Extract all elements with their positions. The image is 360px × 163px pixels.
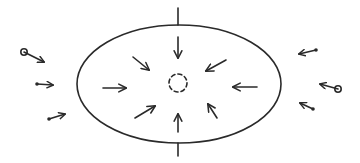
particle-right-6 <box>300 103 315 111</box>
diagram-canvas: Hand-drawn sketch of an elliptical regio… <box>0 0 360 163</box>
particle-motion-arrow-icon <box>299 50 316 54</box>
dashed-center-circle <box>169 74 187 92</box>
particle-motion-arrow-icon <box>300 103 313 109</box>
particle-right-5 <box>320 84 341 92</box>
inward-arrow-lower-left-icon <box>135 106 155 118</box>
particle-left-2 <box>35 82 53 86</box>
outer-particles <box>21 48 341 121</box>
elliptical-region <box>77 25 281 143</box>
inward-arrow-upper-right-icon <box>206 60 226 71</box>
diagram-svg <box>0 0 360 163</box>
particle-right-4 <box>299 48 318 54</box>
inward-arrows <box>103 37 257 132</box>
inward-arrow-upper-left-icon <box>133 57 149 70</box>
particle-left-3 <box>47 114 65 121</box>
particle-left-1 <box>21 49 44 62</box>
particle-motion-arrow-icon <box>24 52 44 62</box>
inward-arrow-lower-right-icon <box>208 104 217 118</box>
particle-motion-arrow-icon <box>37 84 53 85</box>
particle-motion-arrow-icon <box>49 114 65 119</box>
